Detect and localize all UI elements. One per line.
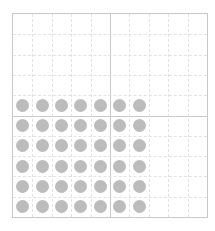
counter-dot [94,119,107,132]
counter-dot [113,139,126,152]
counter-dot [16,119,29,132]
counter-dot [133,160,146,173]
counter-dot [36,180,49,193]
counter-dot [36,160,49,173]
counter-dot [133,139,146,152]
counter-dot [55,119,68,132]
grid-center-divider-horizontal [13,116,207,117]
counter-dot [36,99,49,112]
grid-line-horizontal [13,34,207,35]
counter-dot [36,119,49,132]
counter-dot [94,139,107,152]
counter-dot [16,160,29,173]
counter-dot [55,200,68,213]
counter-dot [113,119,126,132]
counter-dot [74,200,87,213]
counter-dot [55,99,68,112]
counter-dot [16,200,29,213]
counter-dot [94,200,107,213]
counter-dot [74,119,87,132]
counter-dot [36,200,49,213]
counter-dot [113,200,126,213]
counter-dot [36,139,49,152]
counter-dot [55,180,68,193]
dot-grid-board [12,13,208,218]
counter-dot [94,160,107,173]
counter-dot [74,99,87,112]
counter-dot [133,200,146,213]
counter-dot [133,180,146,193]
counter-dot [74,139,87,152]
grid-line-horizontal [13,95,207,96]
counter-dot [94,180,107,193]
counter-dot [16,99,29,112]
counter-dot [55,139,68,152]
counter-dot [74,180,87,193]
grid-line-horizontal [13,176,207,177]
counter-dot [113,180,126,193]
counter-dot [74,160,87,173]
grid-line-horizontal [13,75,207,76]
counter-dot [55,160,68,173]
counter-dot [16,139,29,152]
counter-dot [133,119,146,132]
counter-dot [113,99,126,112]
counter-dot [133,99,146,112]
grid-line-horizontal [13,136,207,137]
grid-line-horizontal [13,55,207,56]
counter-dot [16,180,29,193]
grid-line-horizontal [13,156,207,157]
counter-dot [94,99,107,112]
counter-dot [113,160,126,173]
grid-line-horizontal [13,197,207,198]
